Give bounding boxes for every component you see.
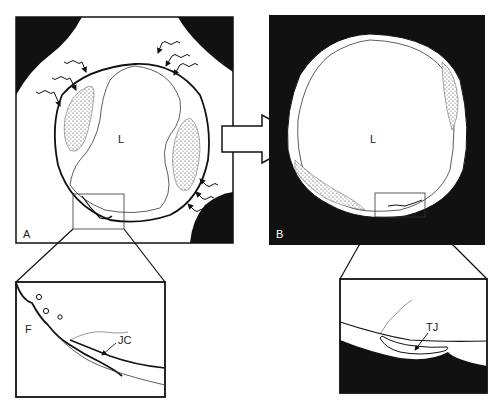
lumen-label-a: L [118,133,124,145]
junction-label-tj: TJ [426,321,438,333]
panel-a: L A [16,17,233,243]
fenestration-label: F [25,323,32,335]
panel-b: L B [269,15,485,245]
inset-b: TJ [340,279,487,393]
junction-label-jc: JC [118,334,132,346]
panel-label-b: B [276,228,283,240]
inset-a: F JC [16,282,165,397]
lumen-label-b: L [370,133,376,145]
diagram-canvas: L A L B [0,0,500,410]
panel-label-a: A [23,228,31,240]
